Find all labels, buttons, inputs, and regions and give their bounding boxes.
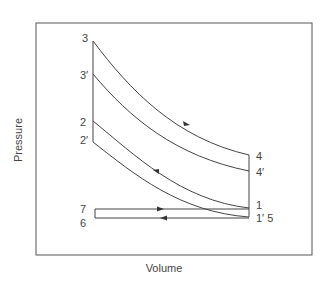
arrow-left-icon xyxy=(160,216,167,221)
label-2p: 2′ xyxy=(80,134,88,146)
label-1p5: 1′ 5 xyxy=(256,212,273,224)
label-6: 6 xyxy=(80,217,86,229)
label-7: 7 xyxy=(80,203,86,215)
expansion-curve-3-4 xyxy=(93,41,249,155)
arrow-expansion-icon xyxy=(183,121,190,126)
pv-diagram: 3 3′ 2 2′ 4 4′ 1 1′ 5 7 6 Volume Pressur… xyxy=(0,0,332,282)
label-4p: 4′ xyxy=(256,166,264,178)
arrow-right-icon xyxy=(157,207,164,212)
x-axis-label: Volume xyxy=(146,262,183,274)
compression-curve-1p-2p xyxy=(93,142,249,217)
y-axis-label: Pressure xyxy=(12,118,24,162)
label-3: 3 xyxy=(82,32,88,44)
label-2: 2 xyxy=(80,116,86,128)
label-4: 4 xyxy=(256,150,262,162)
label-3p: 3′ xyxy=(80,69,88,81)
label-1: 1 xyxy=(256,199,262,211)
expansion-curve-3p-4p xyxy=(93,74,249,171)
